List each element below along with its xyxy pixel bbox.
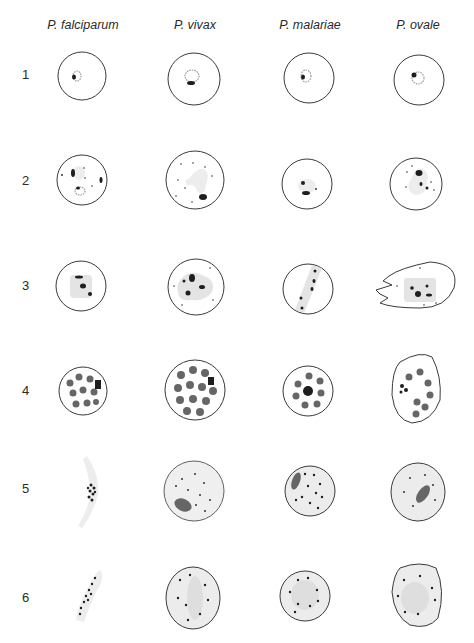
cell-malariae-band-form — [283, 264, 333, 314]
cell-ovale-microgametocyte — [392, 564, 442, 626]
cell-malariae-macrogametocyte — [285, 466, 335, 516]
cell-ovale-fimbriated-trophozoite — [376, 262, 455, 308]
cell-falciparum-crescent-gametocyte — [78, 456, 98, 528]
cell-vivax-macrogametocyte — [164, 461, 224, 521]
cell-falciparum-mature-trophozoite — [56, 261, 106, 311]
cell-malariae-trophozoite — [282, 159, 332, 209]
cell-malariae-microgametocyte — [280, 571, 330, 621]
cell-malariae-ring — [284, 53, 334, 103]
cell-ovale-schizont — [392, 354, 440, 423]
parasite-plate-illustration — [0, 0, 474, 643]
cell-malariae-schizont — [283, 366, 333, 416]
cell-ovale-trophozoite — [390, 158, 442, 210]
cell-vivax-ring — [168, 53, 220, 105]
cell-vivax-mature-trophozoite — [168, 259, 224, 315]
cell-vivax-trophozoite — [166, 151, 224, 209]
cell-vivax-schizont — [165, 360, 225, 420]
cell-falciparum-ring — [58, 52, 106, 100]
cell-ovale-macrogametocyte — [391, 463, 445, 521]
cell-falciparum-schizont — [59, 367, 107, 415]
cell-vivax-microgametocyte — [166, 567, 220, 629]
cell-falciparum-trophozoite — [57, 155, 107, 205]
cell-falciparum-microgametocyte — [76, 570, 102, 622]
cell-ovale-ring — [394, 55, 444, 105]
